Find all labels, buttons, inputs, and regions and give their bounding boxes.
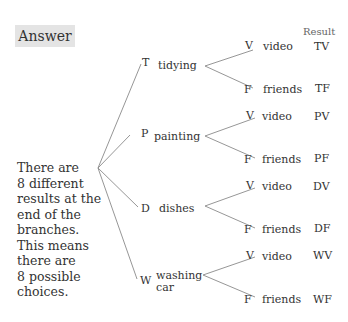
first-stage-letter: W (140, 275, 151, 287)
second-stage-letter: V (246, 180, 254, 192)
result-value: DF (314, 223, 330, 235)
result-value: WV (313, 250, 332, 262)
second-stage-label: friends (263, 84, 302, 96)
result-value: PV (314, 111, 329, 123)
second-stage-letter: F (244, 84, 252, 96)
explanation-line: 8 possible (17, 269, 107, 285)
explanation-line: there are (17, 253, 107, 269)
second-stage-label: friends (262, 224, 301, 236)
explanation-text: There are 8 different results at the end… (17, 160, 107, 300)
first-stage-label: painting (154, 131, 200, 143)
second-stage-label: video (262, 251, 292, 263)
second-stage-label: video (262, 181, 292, 193)
explanation-line: end of the (17, 207, 107, 223)
second-stage-letter: V (246, 250, 254, 262)
second-stage-letter: F (244, 154, 252, 166)
second-stage-label: video (262, 111, 292, 123)
first-stage-letter: P (141, 128, 148, 140)
explanation-line: This means (17, 238, 107, 254)
first-stage-label-line2: car (156, 282, 174, 294)
result-value: WF (313, 294, 332, 306)
second-stage-letter: F (244, 224, 252, 236)
second-stage-letter: V (246, 110, 254, 122)
first-stage-label: dishes (159, 203, 194, 215)
explanation-line: There are (17, 160, 107, 176)
second-stage-letter: V (245, 40, 253, 52)
explanation-line: results at the (17, 191, 107, 207)
result-header: Result (303, 26, 335, 38)
explanation-line: 8 different (17, 176, 107, 192)
result-value: TF (315, 83, 330, 95)
explanation-line: branches. (17, 222, 107, 238)
first-stage-label: tidying (158, 60, 197, 72)
result-value: PF (314, 153, 329, 165)
result-value: DV (313, 181, 330, 193)
explanation-line: choices. (17, 284, 107, 300)
first-stage-letter: D (141, 203, 150, 215)
second-stage-label: friends (262, 294, 301, 306)
result-value: TV (314, 41, 329, 53)
second-stage-label: video (263, 41, 293, 53)
answer-label: Answer (15, 25, 75, 47)
second-stage-label: friends (262, 154, 301, 166)
first-stage-letter: T (142, 57, 149, 69)
second-stage-letter: F (244, 294, 252, 306)
